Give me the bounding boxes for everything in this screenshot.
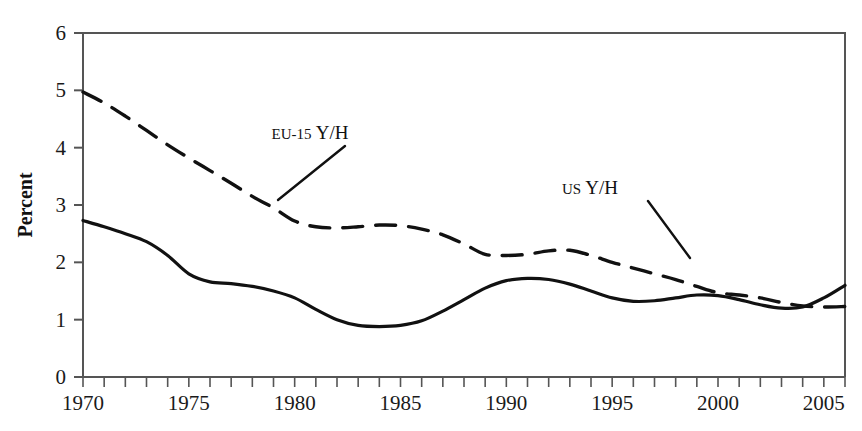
annotation-us-label: US Y/H bbox=[562, 177, 618, 198]
annotation-smallcaps-part: EU-15 bbox=[272, 126, 312, 142]
x-tick-label: 1970 bbox=[62, 391, 104, 415]
x-tick-label: 2005 bbox=[803, 391, 845, 415]
annotation-roman-part: Y/H bbox=[581, 177, 618, 198]
x-tick-label: 1995 bbox=[591, 391, 633, 415]
y-axis-title: Percent bbox=[14, 172, 36, 237]
series-line-us-y-h bbox=[83, 220, 845, 326]
y-tick-label: 1 bbox=[56, 308, 67, 332]
annotation-leader-line bbox=[648, 201, 690, 258]
x-tick-label: 1990 bbox=[485, 391, 527, 415]
x-tick-label: 1975 bbox=[168, 391, 210, 415]
y-tick-label: 0 bbox=[56, 365, 67, 389]
annotation-smallcaps-part: US bbox=[562, 181, 581, 197]
x-tick-label: 1980 bbox=[274, 391, 316, 415]
y-tick-label: 6 bbox=[56, 21, 67, 45]
x-tick-label: 1985 bbox=[380, 391, 422, 415]
annotation-leader-line bbox=[278, 146, 345, 200]
y-tick-label: 5 bbox=[56, 78, 67, 102]
y-axis-tick-labels: 0123456 bbox=[56, 21, 67, 389]
plot-frame bbox=[83, 33, 845, 377]
y-tick-label: 4 bbox=[56, 136, 67, 160]
data-series-group bbox=[83, 92, 845, 326]
annotation-eu-15-label: EU-15 Y/H bbox=[272, 122, 349, 143]
y-tick-label: 2 bbox=[56, 250, 67, 274]
annotation-roman-part: Y/H bbox=[312, 122, 349, 143]
series-line-eu-15-y-h bbox=[83, 92, 845, 307]
series-annotations-group: EU-15 Y/HUS Y/H bbox=[272, 122, 690, 258]
y-tick-label: 3 bbox=[56, 193, 67, 217]
chart-figure: 0123456 19701975198019851990199520002005… bbox=[0, 0, 862, 431]
x-axis-ticks bbox=[83, 377, 845, 387]
x-axis-tick-labels: 19701975198019851990199520002005 bbox=[62, 391, 845, 415]
y-axis-ticks bbox=[74, 33, 83, 377]
x-tick-label: 2000 bbox=[697, 391, 739, 415]
chart-canvas: 0123456 19701975198019851990199520002005… bbox=[0, 0, 862, 431]
